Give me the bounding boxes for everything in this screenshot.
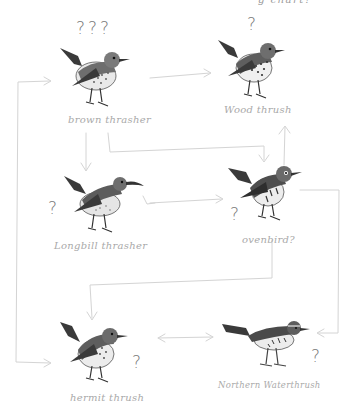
question-mark-northern-waterthrush: ? [311,346,323,366]
edge-brown-thrasher-ovenbird [108,133,264,160]
bird-brown-thrasher-illustration [56,42,136,112]
label-hermit-thrush: hermit thrush [70,392,144,403]
label-longbill-thrasher: Longbill thrasher [54,240,147,251]
question-mark-hermit-thrush: ? [132,352,144,372]
edge-hermit-thrush-northern-waterthrush [158,337,213,338]
question-marks-brown-thrasher: ??? [76,18,112,38]
label-brown-thrasher: brown thrasher [68,114,151,125]
edge-ovenbird-hermit-thrush [90,240,272,318]
bird-northern-waterthrush-illustration [220,318,312,374]
edge-brown-thrasher-hermit-thrush-loop [16,81,50,363]
question-mark-longbill-thrasher: ? [48,198,60,218]
bird-wood-thrush-illustration [214,36,289,104]
label-ovenbird: ovenbird? [242,234,295,245]
edge-longbill-thrasher-ovenbird [150,199,222,203]
edge-brown-thrasher-wood-thrush [150,73,210,78]
bird-hermit-thrush-illustration [58,320,134,386]
question-mark-wood-thrush: ? [247,14,259,34]
label-northern-waterthrush: Northern Waterthrush [218,380,321,390]
label-wood-thrush: Wood thrush [224,104,292,115]
question-mark-ovenbird: ? [230,204,242,224]
chart-title-fragment: g chart? [258,0,312,5]
bird-longbill-thrasher-illustration [62,172,147,238]
edge-ovenbird-wood-thrush [284,127,285,165]
